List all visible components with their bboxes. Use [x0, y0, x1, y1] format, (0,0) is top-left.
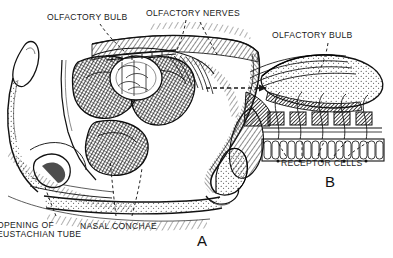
label-opening-of-eustachian-tube: OPENING OF EUSTACHIAN TUBE: [0, 221, 81, 240]
label-olfactory-nerves: OLFACTORY NERVES: [146, 9, 240, 18]
olfactory-anatomy-figure: OLFACTORY BULB OLFACTORY NERVES OLFACTOR…: [0, 0, 393, 258]
label-eustachian-line-2: EUSTACHIAN TUBE: [0, 230, 81, 239]
label-nasal-conchae: NASAL CONCHAE: [80, 222, 157, 231]
panel-letter-b: B: [325, 174, 335, 190]
label-receptor-cells: RECEPTOR CELLS: [281, 159, 362, 168]
olfactory-bulb-panel-a: [110, 56, 162, 100]
label-olfactory-bulb-panel-b: OLFACTORY BULB: [272, 31, 353, 40]
label-olfactory-bulb-panel-a: OLFACTORY BULB: [47, 13, 128, 22]
panel-letter-a: A: [197, 233, 207, 249]
